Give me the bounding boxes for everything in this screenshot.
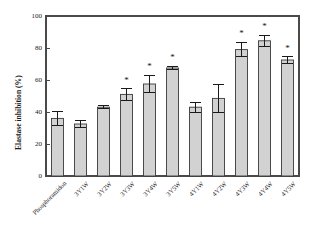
bar [52,118,64,176]
bar [236,50,248,176]
bar [75,124,87,176]
bar [98,107,110,176]
elastase-inhibition-bar-chart: Elastase inhibition (%) 020406080100 Pho… [0,0,317,236]
bar [144,84,156,176]
significance-asterisk: * [120,77,134,83]
significance-asterisk: * [258,23,272,29]
significance-asterisk: * [143,63,157,69]
bar [282,60,294,176]
bar [167,68,179,176]
bar [121,94,133,176]
significance-asterisk: * [281,45,295,51]
bar [190,107,202,176]
bar [259,41,271,176]
significance-asterisk: * [235,30,249,36]
significance-asterisk: * [166,54,180,60]
